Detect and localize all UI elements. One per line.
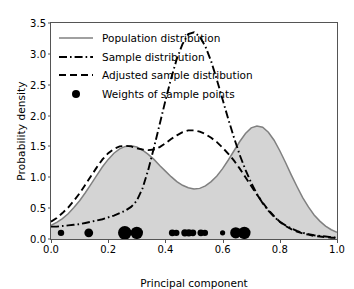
weight-point	[220, 230, 225, 235]
legend-label: Adjusted sample distribution	[102, 69, 253, 81]
x-tick-mark	[108, 239, 109, 243]
legend-label: Population distribution	[102, 32, 220, 44]
legend-label: Sample distribution	[102, 51, 205, 63]
x-tick-mark	[280, 239, 281, 243]
y-tick-label: 2.5	[30, 79, 46, 90]
weight-point	[189, 229, 196, 236]
legend-line-icon	[58, 50, 94, 64]
weight-point	[202, 230, 208, 236]
x-tick-mark	[51, 239, 52, 243]
x-tick-mark	[223, 239, 224, 243]
y-tick-label: 2.0	[30, 110, 46, 121]
legend-item: Sample distribution	[58, 48, 253, 67]
x-tick-mark	[337, 239, 338, 243]
legend-line-icon	[58, 31, 94, 45]
weight-point	[84, 228, 93, 237]
y-tick-label: 3.5	[30, 18, 46, 29]
legend-label: Weights of sample points	[102, 88, 235, 100]
legend-item: Weights of sample points	[58, 85, 253, 104]
y-tick-label: 0.5	[30, 203, 46, 214]
x-axis-label: Principal component	[51, 277, 337, 289]
x-tick-label: 1.0	[329, 244, 345, 255]
y-axis-label: Probability density	[15, 23, 31, 239]
y-tick-label: 0.0	[30, 234, 46, 245]
weight-point	[131, 227, 143, 239]
x-tick-label: 0.8	[272, 244, 288, 255]
x-tick-mark	[165, 239, 166, 243]
legend: Population distributionSample distributi…	[58, 29, 253, 103]
x-tick-label: 0.6	[215, 244, 231, 255]
x-tick-label: 0.4	[157, 244, 173, 255]
weight-point	[173, 230, 179, 236]
y-tick-label: 3.0	[30, 48, 46, 59]
y-tick-label: 1.5	[30, 141, 46, 152]
x-tick-label: 0.2	[100, 244, 116, 255]
x-tick-label: 0.0	[43, 244, 59, 255]
weight-point	[238, 227, 250, 239]
weight-point	[58, 230, 64, 236]
y-tick-label: 1.0	[30, 172, 46, 183]
legend-item: Adjusted sample distribution	[58, 66, 253, 85]
weight-point	[118, 226, 132, 239]
legend-item: Population distribution	[58, 29, 253, 48]
legend-line-icon	[58, 68, 94, 82]
legend-marker-icon	[58, 87, 94, 101]
plot-area: Probability density Principal component …	[50, 22, 338, 240]
